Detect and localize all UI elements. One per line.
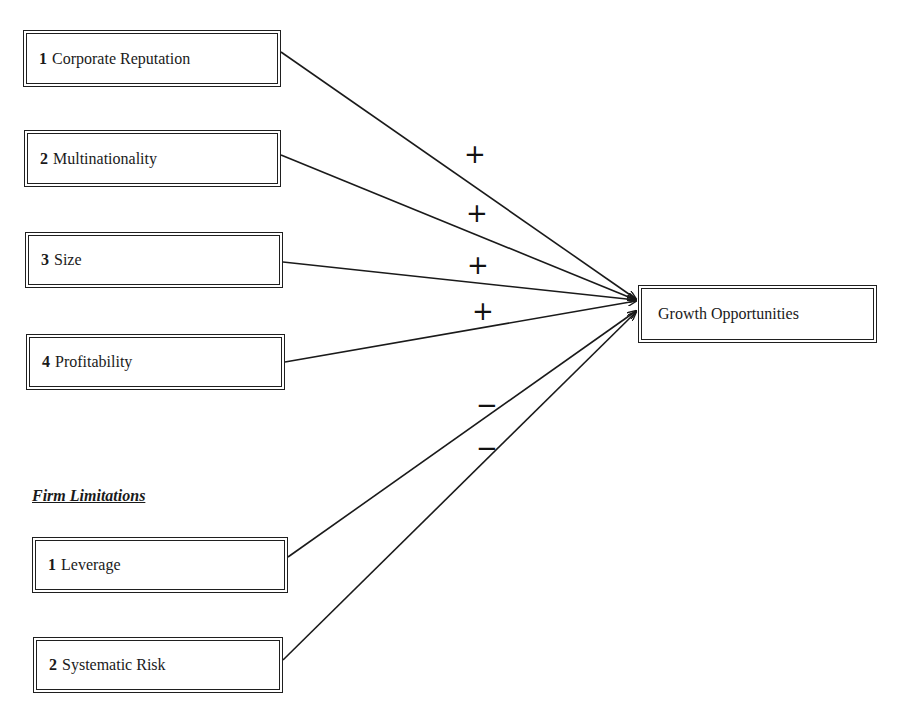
arrow-leverage xyxy=(288,311,636,557)
positive-sign: + xyxy=(464,141,486,167)
driver-box-size: 3 Size xyxy=(25,232,283,288)
negative-sign: − xyxy=(476,392,498,418)
arrow-profitability xyxy=(285,301,636,362)
limitation-number: 1 xyxy=(48,556,56,574)
firm-limitations-heading: Firm Limitations xyxy=(32,487,145,505)
driver-number: 4 xyxy=(42,353,50,371)
outcome-box-growth-opportunities: Growth Opportunities xyxy=(638,285,877,343)
driver-label: Size xyxy=(54,251,82,269)
driver-box-profitability: 4 Profitability xyxy=(26,334,285,390)
limitation-box-systematic-risk: 2 Systematic Risk xyxy=(33,637,283,693)
driver-number: 3 xyxy=(41,251,49,269)
limitation-box-leverage: 1 Leverage xyxy=(32,537,288,593)
driver-box-multinationality: 2 Multinationality xyxy=(24,130,281,187)
arrow-corporate-reputation xyxy=(281,52,636,299)
outcome-label: Growth Opportunities xyxy=(658,305,799,323)
driver-number: 2 xyxy=(40,150,48,168)
driver-label: Profitability xyxy=(55,353,132,371)
limitation-number: 2 xyxy=(49,656,57,674)
driver-box-corporate-reputation: 1 Corporate Reputation xyxy=(23,30,281,87)
driver-label: Multinationality xyxy=(53,150,157,168)
negative-sign: − xyxy=(476,435,498,461)
arrow-multinationality xyxy=(281,155,636,300)
driver-label: Corporate Reputation xyxy=(52,50,190,68)
positive-sign: + xyxy=(467,252,489,278)
limitation-label: Leverage xyxy=(61,556,121,574)
arrow-size xyxy=(283,262,636,300)
limitation-label: Systematic Risk xyxy=(62,656,166,674)
driver-number: 1 xyxy=(39,50,47,68)
positive-sign: + xyxy=(466,200,488,226)
arrow-systematic-risk xyxy=(283,312,636,660)
positive-sign: + xyxy=(472,298,494,324)
